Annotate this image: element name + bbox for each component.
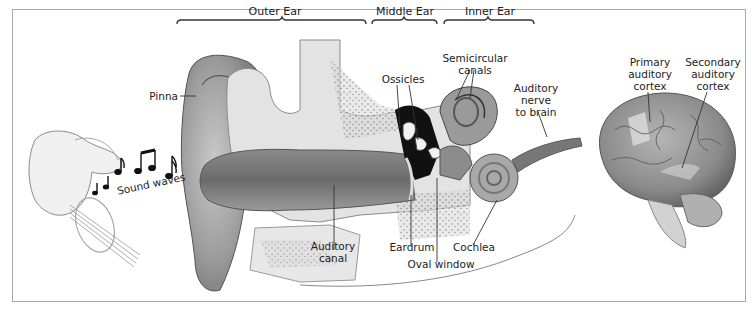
label-oval-window: Oval window [405,258,477,270]
brain-drawing [599,93,735,248]
auditory-canal-drawing [200,149,415,210]
label-semicircular-canals: Semicircular canals [440,52,510,76]
label-eardrum: Eardrum [384,241,440,253]
section-label-middle-ear: Middle Ear [370,6,440,18]
label-secondary-auditory-cortex: Secondary auditory cortex [680,56,746,92]
label-pinna: Pinna [132,90,178,102]
section-label-inner-ear: Inner Ear [450,6,530,18]
label-auditory-canal: Auditory canal [305,240,361,264]
label-auditory-nerve: Auditory nerve to brain [508,82,564,118]
ear-anatomy-illustration [0,0,754,310]
label-primary-auditory-cortex: Primary auditory cortex [620,56,680,92]
label-cochlea: Cochlea [447,241,501,253]
section-brackets [177,17,534,24]
section-label-outer-ear: Outer Ear [230,6,320,18]
hand-guitar-drawing [29,131,140,267]
label-ossicles: Ossicles [378,73,428,85]
